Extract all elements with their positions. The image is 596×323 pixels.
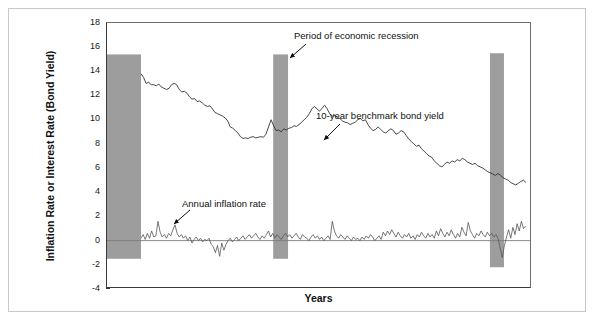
recession-band-3	[490, 53, 504, 267]
y-tick-label-4: 4	[70, 187, 100, 196]
y-tick-label-neg4: -4	[70, 284, 100, 293]
x-axis-title: Years	[106, 292, 531, 304]
recession-band-2	[273, 54, 288, 258]
bond-yield-line	[141, 74, 526, 185]
y-tick-label-16: 16	[70, 42, 100, 51]
y-tick-label-neg2: -2	[70, 260, 100, 269]
annual-inflation-rate-line	[141, 221, 526, 257]
annotation-label-bond-yield: 10-year benchmark bond yield	[316, 110, 444, 121]
y-tick-mark-neg4	[106, 288, 110, 289]
recession-band-1	[107, 54, 141, 258]
y-axis-title: Inflation Rate or Interest Rate (Bond Yi…	[44, 31, 56, 281]
y-tick-label-6: 6	[70, 163, 100, 172]
recession-bars-group	[107, 53, 504, 267]
plot-canvas	[107, 23, 531, 288]
y-tick-label-12: 12	[70, 90, 100, 99]
annotation-label-recession: Period of economic recession	[294, 30, 419, 41]
y-axis-tick-labels: 18 16 14 12 10 8 6 4 2 0 -2 -4	[68, 0, 100, 323]
y-tick-label-8: 8	[70, 139, 100, 148]
annotation-label-inflation: Annual inflation rate	[182, 198, 266, 209]
y-tick-label-2: 2	[70, 211, 100, 220]
y-tick-label-18: 18	[70, 18, 100, 27]
y-tick-label-10: 10	[70, 114, 100, 123]
y-tick-label-14: 14	[70, 66, 100, 75]
y-tick-label-0: 0	[70, 236, 100, 245]
plot-area	[106, 22, 531, 288]
chart-figure: 18 16 14 12 10 8 6 4 2 0 -2 -4 Inflation…	[0, 0, 596, 323]
